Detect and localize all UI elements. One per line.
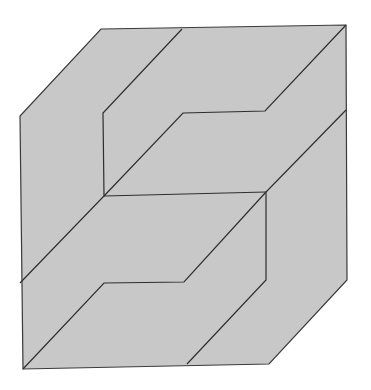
geometric-figure xyxy=(0,0,371,390)
